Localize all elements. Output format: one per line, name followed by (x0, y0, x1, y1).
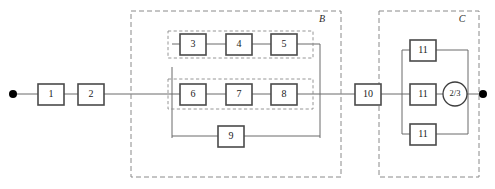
block-b9[interactable]: 9 (218, 126, 244, 147)
block-layer: 12345678910111111 (38, 34, 436, 147)
block-label-b6: 6 (191, 88, 196, 99)
block-label-b2: 2 (89, 88, 94, 99)
reliability-block-diagram: 12345678910111111 2/3 BC (0, 0, 495, 189)
block-b6[interactable]: 6 (180, 84, 206, 105)
group-label-C: C (459, 13, 466, 24)
block-label-b11b: 11 (418, 88, 428, 99)
block-b10[interactable]: 10 (355, 84, 381, 105)
block-b1[interactable]: 1 (38, 84, 64, 105)
voter-layer: 2/3 (443, 82, 467, 106)
block-label-b4: 4 (237, 38, 242, 49)
block-label-b3: 3 (191, 38, 196, 49)
block-b11c[interactable]: 11 (410, 124, 436, 145)
block-label-b10: 10 (363, 88, 373, 99)
voter-label: 2/3 (450, 88, 461, 98)
block-b3[interactable]: 3 (180, 34, 206, 55)
output-terminal (479, 90, 487, 98)
voting-gate-voter23[interactable]: 2/3 (443, 82, 467, 106)
block-label-b7: 7 (237, 88, 242, 99)
block-label-b11c: 11 (418, 128, 428, 139)
block-b2[interactable]: 2 (78, 84, 104, 105)
block-label-b9: 9 (229, 130, 234, 141)
block-b5[interactable]: 5 (271, 34, 297, 55)
block-b4[interactable]: 4 (226, 34, 252, 55)
block-b8[interactable]: 8 (271, 84, 297, 105)
block-label-b1: 1 (49, 88, 54, 99)
diagram-canvas: 12345678910111111 2/3 BC (0, 0, 495, 189)
block-b11a[interactable]: 11 (410, 40, 436, 61)
group-label-B: B (319, 13, 325, 24)
block-b11b[interactable]: 11 (410, 84, 436, 105)
block-label-b5: 5 (282, 38, 287, 49)
block-b7[interactable]: 7 (226, 84, 252, 105)
block-label-b11a: 11 (418, 44, 428, 55)
block-label-b8: 8 (282, 88, 287, 99)
input-terminal (9, 90, 17, 98)
